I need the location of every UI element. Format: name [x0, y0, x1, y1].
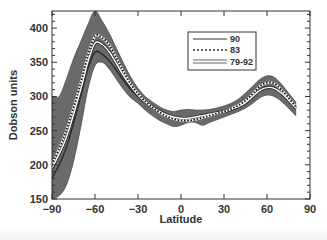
ozone-latitude-chart: −90−60−300306090150200250300350400 90 83…	[0, 0, 327, 240]
x-tick-label: 60	[261, 203, 273, 215]
series-90-line	[52, 42, 296, 168]
y-tick-label: 300	[30, 90, 48, 102]
caption-fragment	[0, 226, 327, 240]
x-tick-label: 90	[304, 203, 316, 215]
x-tick-label: 30	[218, 203, 230, 215]
y-tick-label: 250	[30, 125, 48, 137]
y-tick-label: 150	[30, 193, 48, 205]
legend-label-83: 83	[230, 45, 240, 55]
x-tick-label: −30	[129, 203, 148, 215]
legend: 90 83 79-92	[188, 32, 256, 70]
range-band-79-92	[52, 11, 296, 199]
legend-label-90: 90	[230, 34, 240, 44]
series-83-line	[52, 35, 296, 165]
x-tick-label: −60	[86, 203, 105, 215]
legend-label-79-92: 79-92	[230, 57, 253, 67]
y-tick-label: 200	[30, 159, 48, 171]
y-axis-title: Dobson units	[7, 70, 19, 140]
plot-area	[52, 11, 296, 199]
y-tick-label: 400	[30, 22, 48, 34]
y-tick-label: 350	[30, 56, 48, 68]
x-axis-title: Latitude	[160, 213, 203, 225]
